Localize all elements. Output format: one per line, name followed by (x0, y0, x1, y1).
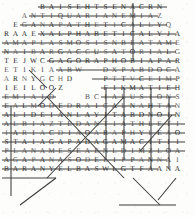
grid-letter: B (20, 119, 29, 128)
grid-letter: N (173, 101, 182, 110)
grid-letter: Y (47, 164, 56, 173)
grid-letter: I (146, 137, 155, 146)
grid-letter: A (38, 128, 47, 137)
grid-letter: E (155, 128, 164, 137)
grid-letter: N (173, 110, 182, 119)
word-search-document: BAISEHTSENACRNANTIQUARIANEMIAZEGANAPATHE… (0, 0, 195, 217)
grid-letter: A (56, 155, 65, 164)
grid-letter: G (101, 137, 110, 146)
grid-letter: H (56, 74, 65, 83)
grid-letter: N (155, 2, 164, 11)
grid-letter: B (29, 47, 38, 56)
grid-letter: A (110, 128, 119, 137)
grid-letter: H (83, 2, 92, 11)
grid-letter: L (146, 128, 155, 137)
grid-letter: S (101, 2, 110, 11)
grid-letter: D (74, 119, 83, 128)
grid-letter: H (146, 101, 155, 110)
grid-letter: O (38, 83, 47, 92)
grid-letter: R (74, 101, 83, 110)
grid-letter: Y (29, 74, 38, 83)
grid-letter: S (92, 164, 101, 173)
grid-letter: A (11, 101, 20, 110)
grid-letter: D (56, 128, 65, 137)
grid-letter: N (29, 11, 38, 20)
grid-letter: S (173, 92, 182, 101)
grid-letter: I (101, 110, 110, 119)
grid-letter: P (101, 74, 110, 83)
grid-letter: I (155, 83, 164, 92)
grid-letter: N (146, 155, 155, 164)
grid-letter: O (74, 155, 83, 164)
grid-letter: A (173, 164, 182, 173)
grid-letter: A (47, 38, 56, 47)
grid-letter: C (101, 101, 110, 110)
grid-letter: P (119, 155, 128, 164)
grid-letter: B (74, 164, 83, 173)
grid-letter: E (56, 101, 65, 110)
grid-letter: P (119, 128, 128, 137)
grid-letter: A (155, 164, 164, 173)
grid-letter: A (11, 29, 20, 38)
grid-letter: A (74, 137, 83, 146)
grid-letter: D (146, 65, 155, 74)
grid-letter: D (119, 146, 128, 155)
grid-letter: A (173, 146, 182, 155)
grid-letter: O (164, 146, 173, 155)
grid-letter: C (47, 74, 56, 83)
grid-letter: P (65, 137, 74, 146)
grid-letter: I (29, 119, 38, 128)
grid-letter: G (119, 164, 128, 173)
grid-letter: E (119, 11, 128, 20)
grid-letter: E (11, 56, 20, 65)
grid-letter: S (101, 38, 110, 47)
grid-letter: I (65, 128, 74, 137)
grid-letter: I (137, 11, 146, 20)
grid-letter: M (47, 146, 56, 155)
grid-letter: A (83, 29, 92, 38)
grid-letter: I (128, 146, 137, 155)
grid-letter: I (110, 83, 119, 92)
grid-letter: R (20, 128, 29, 137)
grid-letter: A (146, 11, 155, 20)
grid-letter: L (11, 146, 20, 155)
grid-letter: D (137, 110, 146, 119)
grid-letter: B (137, 65, 146, 74)
grid-letter: I (38, 65, 47, 74)
grid-letter: I (47, 11, 56, 20)
grid-letter: M (128, 83, 137, 92)
grid-letter: A (2, 155, 11, 164)
grid-letter: T (11, 137, 20, 146)
grid-letter: A (137, 83, 146, 92)
grid-letter: M (137, 146, 146, 155)
grid-letter: W (74, 65, 83, 74)
grid-letter: P (128, 155, 137, 164)
grid-letter: D (65, 74, 74, 83)
grid-letter: L (146, 29, 155, 38)
grid-letter: A (83, 110, 92, 119)
grid-letter: E (155, 119, 164, 128)
grid-letter: Z (56, 83, 65, 92)
grid-letter: C (128, 29, 137, 38)
letter-grid: BAISEHTSENACRNANTIQUARIANEMIAZEGANAPATHE… (0, 0, 195, 217)
grid-letter: I (146, 92, 155, 101)
grid-letter: X (38, 29, 47, 38)
grid-letter: D (65, 101, 74, 110)
grid-letter: M (119, 137, 128, 146)
grid-letter: Q (164, 20, 173, 29)
grid-letter: K (119, 83, 128, 92)
grid-letter: N (92, 119, 101, 128)
grid-letter: B (119, 38, 128, 47)
grid-letter: A (128, 65, 137, 74)
grid-letter: H (137, 119, 146, 128)
grid-letter: T (101, 20, 110, 29)
grid-letter: C (137, 2, 146, 11)
grid-letter: Z (47, 119, 56, 128)
grid-letter: A (164, 101, 173, 110)
grid-letter: A (29, 20, 38, 29)
grid-letter: A (128, 137, 137, 146)
grid-letter: Z (146, 146, 155, 155)
grid-letter: R (173, 56, 182, 65)
grid-letter: A (38, 137, 47, 146)
grid-letter: T (110, 74, 119, 83)
